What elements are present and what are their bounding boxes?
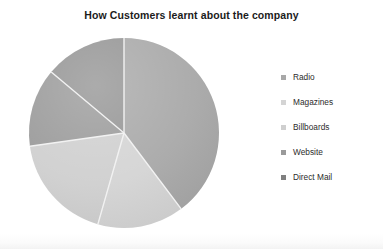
legend-item-label: Direct Mail xyxy=(293,173,332,181)
pie-chart-svg xyxy=(20,30,235,240)
legend-swatch-icon xyxy=(281,175,286,180)
chart-legend: Radio Magazines Billboards Website Direc… xyxy=(281,65,381,190)
legend-swatch-icon xyxy=(281,100,286,105)
chart-screenshot: How Customers learnt about the company R… xyxy=(0,0,383,249)
legend-item-label: Website xyxy=(293,148,323,156)
legend-swatch-icon xyxy=(281,150,286,155)
legend-item-radio[interactable]: Radio xyxy=(281,65,381,90)
pie-chart xyxy=(20,30,235,240)
legend-item-magazines[interactable]: Magazines xyxy=(281,90,381,115)
legend-item-label: Magazines xyxy=(293,98,333,106)
legend-item-direct-mail[interactable]: Direct Mail xyxy=(281,165,381,190)
legend-item-label: Radio xyxy=(293,73,315,81)
page-title: How Customers learnt about the company xyxy=(0,9,383,21)
legend-item-label: Billboards xyxy=(293,123,329,131)
legend-swatch-icon xyxy=(281,125,286,130)
legend-swatch-icon xyxy=(281,75,286,80)
legend-item-billboards[interactable]: Billboards xyxy=(281,115,381,140)
legend-item-website[interactable]: Website xyxy=(281,140,381,165)
